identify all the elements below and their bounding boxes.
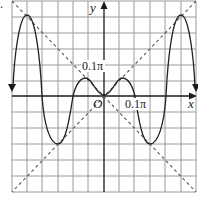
y-axis-arrow-icon — [101, 1, 108, 9]
origin-label: O — [93, 96, 103, 111]
y-axis-label: y — [88, 0, 96, 15]
curve-right-arrow-icon — [192, 84, 198, 92]
function-graph: . y x O 0.1π — [0, 0, 198, 200]
curve-left-arrow-icon — [8, 84, 16, 92]
tick-label-x: 0.1π — [125, 97, 146, 111]
x-axis-label: x — [187, 96, 194, 111]
tick-label-top: 0.1π — [82, 59, 103, 73]
problem-number-mark: . — [0, 0, 3, 11]
